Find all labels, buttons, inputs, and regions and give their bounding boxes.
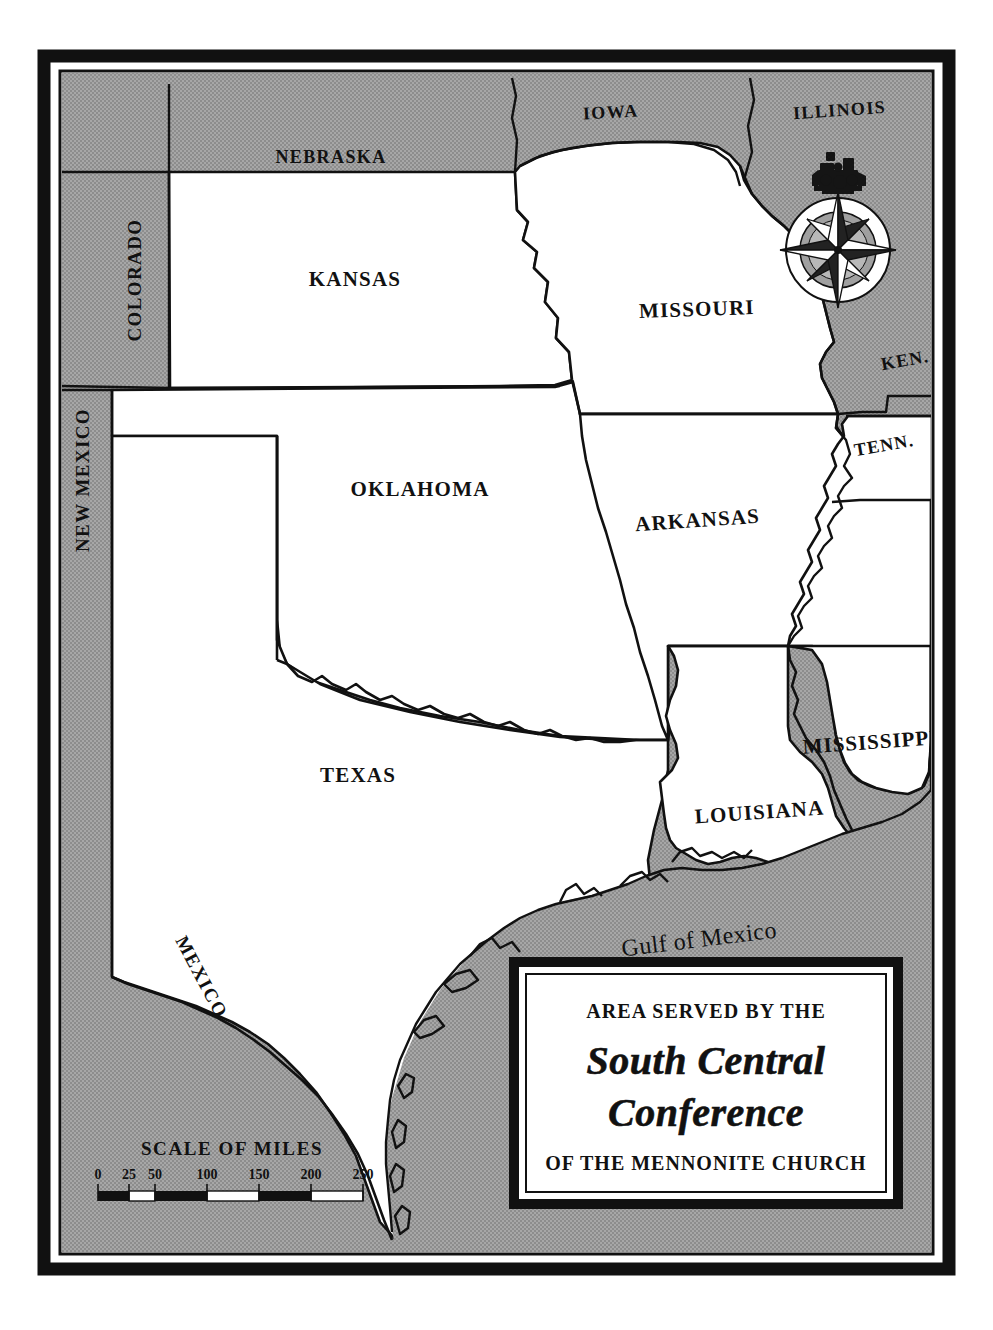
state-label-new-mexico: NEW MEXICO <box>72 408 93 552</box>
cartouche-title-line-1: South Central <box>587 1038 826 1083</box>
state-label-missouri: MISSOURI <box>638 295 755 323</box>
state-label-texas: TEXAS <box>320 763 396 787</box>
cartouche-line-area-served: AREA SERVED BY THE <box>586 1000 826 1022</box>
state-label-colorado: COLORADO <box>124 218 145 341</box>
cartouche-line-of-the-church: OF THE MENNONITE CHURCH <box>545 1152 866 1174</box>
state-label-iowa: IOWA <box>582 101 639 124</box>
map-canvas: KANSAS OKLAHOMA TEXAS MISSOURI ARKANSAS … <box>0 0 993 1330</box>
cartouche-title-line-2: Conference <box>608 1090 804 1135</box>
map-body: KANSAS OKLAHOMA TEXAS MISSOURI ARKANSAS … <box>62 73 967 1252</box>
map-page: KANSAS OKLAHOMA TEXAS MISSOURI ARKANSAS … <box>0 0 993 1330</box>
scale-tick-label-150: 150 <box>249 1167 270 1182</box>
scale-tick-label-200: 200 <box>301 1167 322 1182</box>
scale-tick-label-25: 25 <box>122 1167 136 1182</box>
scale-bar-title: SCALE OF MILES <box>141 1138 323 1159</box>
state-label-kansas: KANSAS <box>309 267 401 291</box>
scale-tick-label-250: 250 <box>353 1167 374 1182</box>
scale-tick-label-0: 0 <box>95 1167 102 1182</box>
state-label-nebraska: NEBRASKA <box>275 147 386 167</box>
title-cartouche: AREA SERVED BY THE South Central Confere… <box>514 962 898 1204</box>
scale-tick-label-100: 100 <box>197 1167 218 1182</box>
state-label-oklahoma: OKLAHOMA <box>350 477 489 501</box>
scale-tick-label-50: 50 <box>148 1167 162 1182</box>
